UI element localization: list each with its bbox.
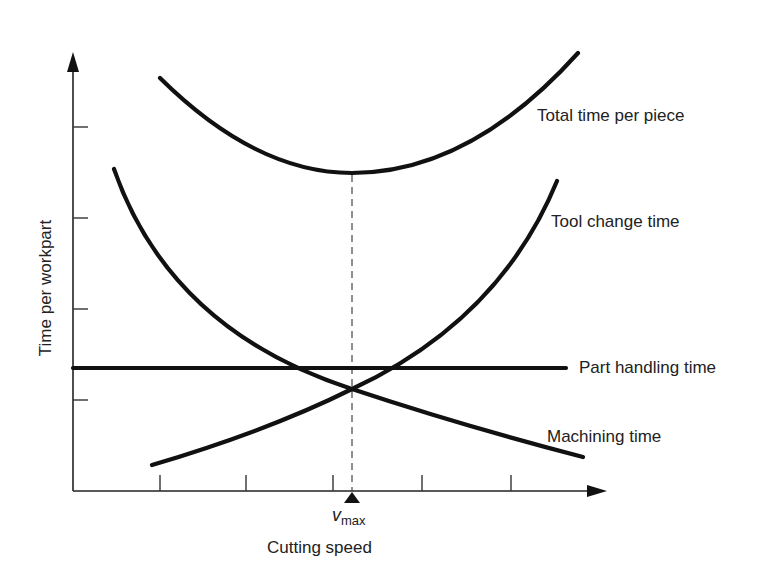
diagram-canvas [0,0,779,578]
y-axis-label: Time per workpart [36,220,56,356]
x-axis-label: Cutting speed [267,538,372,558]
curve-total-time [160,53,578,173]
label-total-time: Total time per piece [537,106,684,126]
x-axis-arrow-icon [587,485,607,497]
label-part-handling-time: Part handling time [579,358,716,378]
vmax-marker-triangle-icon [344,492,360,503]
vmax-label: vmax [332,505,366,528]
y-axis-arrow-icon [67,52,79,72]
curve-tool-change-time [152,181,557,465]
label-machining-time: Machining time [547,427,661,447]
vmax-symbol: v [332,505,341,525]
vmax-subscript: max [341,513,366,528]
label-tool-change-time: Tool change time [551,212,680,232]
x-axis [73,475,607,497]
curve-machining-time [114,169,583,457]
y-axis [67,52,88,491]
